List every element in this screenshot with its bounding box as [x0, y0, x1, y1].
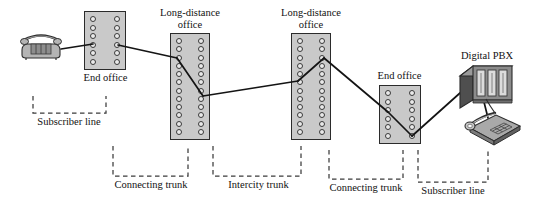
label-digital-pbx: Digital PBX [437, 50, 537, 62]
label-line-2: office [178, 19, 202, 30]
label-line-1: Long-distance [160, 7, 220, 18]
label-long-distance-office-2: Long-distance office [261, 7, 361, 31]
label-line-1: Long-distance [281, 7, 341, 18]
label-connecting-trunk-right: Connecting trunk [321, 182, 411, 194]
digital-pbx-icon[interactable] [460, 66, 512, 108]
label-subscriber-line-right: Subscriber line [404, 185, 502, 197]
label-line-2: office [299, 19, 323, 30]
desk-telephone-icon[interactable] [465, 99, 520, 145]
analog-telephone-icon[interactable] [21, 36, 62, 61]
label-end-office-left: End office [58, 72, 153, 84]
label-long-distance-office-1: Long-distance office [140, 7, 240, 31]
label-connecting-trunk-left: Connecting trunk [106, 179, 196, 191]
network-diagram-canvas: End office Long-distance office Long-dis… [0, 0, 539, 206]
label-subscriber-line-left: Subscriber line [19, 116, 119, 128]
label-end-office-right: End office [352, 70, 447, 82]
label-intercity-trunk: Intercity trunk [216, 179, 301, 191]
